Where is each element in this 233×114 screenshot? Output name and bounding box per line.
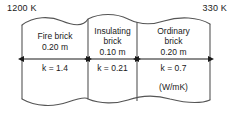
layer-2-thickness-label: 0.10 m bbox=[88, 47, 137, 58]
layer-2-conductivity-label: k = 0.21 bbox=[86, 63, 139, 74]
layer-3-material-name-line1: Ordinary bbox=[137, 26, 210, 36]
wall-conduction-diagram: 1200 K 330 K Fire brick 0.20 m k = 1.4 I… bbox=[0, 0, 233, 114]
conductivity-units-note: (W/mK) bbox=[137, 82, 210, 93]
layer-2-material-name-line2: brick bbox=[86, 36, 139, 46]
layer-3-material-name: Ordinary brick bbox=[137, 26, 210, 46]
layer-2-material-name: Insulating brick bbox=[86, 26, 139, 46]
layer-1-conductivity-label: k = 1.4 bbox=[22, 63, 88, 74]
layer-2-material-name-line1: Insulating bbox=[86, 26, 139, 36]
cold-side-temperature-label: 330 K bbox=[202, 3, 227, 13]
layer-3-material-name-line2: brick bbox=[137, 36, 210, 46]
layer-3-conductivity-label: k = 0.7 bbox=[137, 63, 210, 74]
wall-bottom-wavy-edge bbox=[22, 96, 210, 105]
layer-1-thickness-label: 0.20 m bbox=[22, 42, 88, 53]
layer-3-thickness-label: 0.20 m bbox=[137, 47, 210, 58]
hot-side-temperature-label: 1200 K bbox=[7, 3, 37, 13]
wall-top-wavy-edge bbox=[22, 15, 210, 26]
layer-1-material-name: Fire brick bbox=[22, 31, 88, 42]
